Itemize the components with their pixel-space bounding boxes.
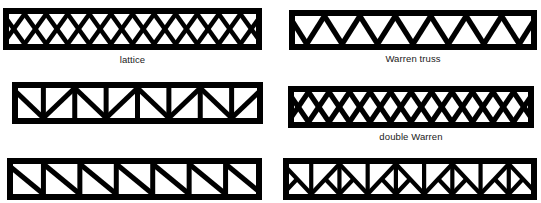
web-diagonal-up xyxy=(307,16,325,44)
web-diagonal-down xyxy=(138,88,169,118)
truss-drawing-warren-truss xyxy=(289,10,537,50)
web-diagonal-down xyxy=(431,16,449,44)
truss-diagram-warren-truss xyxy=(289,10,537,50)
web-diagonal-half-up xyxy=(339,179,353,194)
web-diagonal-half-up xyxy=(452,179,466,194)
web-diagonal-half-up xyxy=(509,179,523,194)
truss-diagram-lattice xyxy=(3,8,262,50)
web-diagonal-up xyxy=(169,88,200,118)
web-diagonal-down xyxy=(395,16,413,44)
truss-drawing-lattice xyxy=(3,8,262,50)
web-diagonal-down xyxy=(200,88,231,118)
web-diagonal-down xyxy=(360,16,378,44)
web-diagonal-down xyxy=(116,164,152,194)
truss-types-figure: latticeWarren trussdouble Warren xyxy=(0,0,541,203)
truss-label-lattice: lattice xyxy=(3,54,262,66)
web-diagonal-half-up xyxy=(396,179,410,194)
truss-drawing-howe-parallel-diagonals xyxy=(7,158,262,200)
truss-label-warren-truss: Warren truss xyxy=(289,53,537,65)
truss-drawing-double-warren xyxy=(288,86,534,128)
truss-diagram-k-truss xyxy=(283,158,537,200)
web-diagonal-up xyxy=(484,16,502,44)
web-diagonal-up xyxy=(342,16,360,44)
web-diagonal-down xyxy=(466,16,484,44)
truss-label-double-warren: double Warren xyxy=(288,131,534,143)
truss-diagram-double-warren xyxy=(288,86,534,128)
web-diagonal-half-down xyxy=(325,179,339,194)
web-diagonal-down xyxy=(189,164,225,194)
web-diagonal-half-down xyxy=(382,179,396,194)
web-diagonal-up xyxy=(448,16,466,44)
web-diagonal-up xyxy=(413,16,431,44)
web-diagonal-half-down xyxy=(438,179,452,194)
truss-drawing-k-truss xyxy=(283,158,537,200)
web-diagonal-down xyxy=(153,164,189,194)
web-diagonal-down xyxy=(324,16,342,44)
truss-drawing-pratt-alternating xyxy=(12,82,263,124)
web-diagonal-half-down xyxy=(495,179,509,194)
truss-diagram-howe-parallel-diagonals xyxy=(7,158,262,200)
web-diagonal-up xyxy=(106,88,137,118)
web-diagonal-down xyxy=(80,164,116,194)
web-diagonal-up xyxy=(378,16,396,44)
web-diagonal-up xyxy=(43,88,74,118)
web-diagonal-down xyxy=(502,16,520,44)
web-diagonal-down xyxy=(75,88,106,118)
truss-diagram-pratt-alternating xyxy=(12,82,263,124)
web-diagonal-down xyxy=(43,164,79,194)
